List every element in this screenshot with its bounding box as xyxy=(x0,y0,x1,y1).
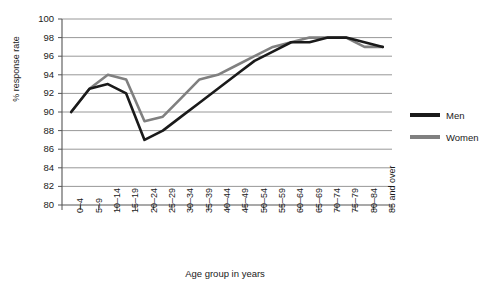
x-tick-label: 25–29 xyxy=(167,188,177,213)
series-line-women xyxy=(71,38,383,122)
y-tick-label: 82 xyxy=(28,181,54,191)
y-tick-label: 86 xyxy=(28,144,54,154)
chart-legend: Men Women xyxy=(410,104,479,148)
x-tick-label: 75–79 xyxy=(350,188,360,213)
x-tick-label: 15–19 xyxy=(130,188,140,213)
y-tick-label: 84 xyxy=(28,163,54,173)
legend-swatch-men xyxy=(410,113,440,117)
x-tick-label: 5–9 xyxy=(94,198,104,213)
legend-swatch-women xyxy=(410,135,440,139)
y-tick-label: 88 xyxy=(28,126,54,136)
x-tick-label: 10–14 xyxy=(112,188,122,213)
x-tick-label: 30–34 xyxy=(185,188,195,213)
y-tick-label: 100 xyxy=(28,14,54,24)
x-tick-label: 0–4 xyxy=(75,198,85,213)
x-axis-title: Age group in years xyxy=(150,268,300,279)
y-tick-label: 96 xyxy=(28,51,54,61)
x-tick-label: 65–69 xyxy=(314,188,324,213)
legend-item-men: Men xyxy=(410,104,479,126)
y-tick-label: 90 xyxy=(28,107,54,117)
y-tick-label: 92 xyxy=(28,88,54,98)
x-tick-label: 60–64 xyxy=(295,188,305,213)
x-tick-label: 40–44 xyxy=(222,188,232,213)
legend-label-men: Men xyxy=(446,110,464,121)
x-tick-label: 45–49 xyxy=(240,188,250,213)
plot-area xyxy=(0,0,493,304)
y-tick-label: 94 xyxy=(28,70,54,80)
x-tick-label: 50–54 xyxy=(259,188,269,213)
legend-item-women: Women xyxy=(410,126,479,148)
x-tick-label: 55–59 xyxy=(277,188,287,213)
y-tick-label: 98 xyxy=(28,33,54,43)
series-line-men xyxy=(71,38,383,140)
x-tick-label: 70–74 xyxy=(332,188,342,213)
x-tick-label: 85 and over xyxy=(387,165,397,213)
legend-label-women: Women xyxy=(446,132,479,143)
chart-figure: % response rate 10098969492908886848280 … xyxy=(0,0,493,304)
x-tick-label: 80–84 xyxy=(369,188,379,213)
x-tick-label: 35–39 xyxy=(204,188,214,213)
y-axis-title: % response rate xyxy=(11,9,21,129)
y-tick-label: 80 xyxy=(28,200,54,210)
x-tick-label: 20–24 xyxy=(149,188,159,213)
